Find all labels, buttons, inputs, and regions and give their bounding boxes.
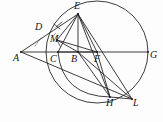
point-label-f: F (94, 54, 100, 64)
point-label-d: D (35, 22, 42, 32)
geometry-figure: A B C D E F G H L M (0, 0, 163, 122)
segment-e-l (78, 14, 132, 99)
vertex-a-dot (20, 51, 22, 53)
point-label-g: G (150, 50, 157, 60)
point-label-a: A (13, 53, 19, 63)
vertex-g-dot (147, 51, 149, 53)
vertex-e-dot (77, 13, 79, 15)
point-label-b: B (71, 54, 77, 64)
vertex-c-dot (57, 51, 59, 53)
segment-e-m (57, 14, 78, 40)
point-label-e: E (74, 1, 80, 11)
vertex-b-dot (77, 51, 79, 53)
segment-m-f (57, 40, 97, 52)
point-label-l: L (133, 98, 139, 108)
segment-e-f (78, 14, 97, 52)
point-label-h: H (106, 98, 113, 108)
arc-c-to-h (58, 52, 110, 97)
point-label-m: M (50, 34, 58, 44)
segment-b-l (78, 52, 132, 99)
point-label-c: C (50, 54, 57, 64)
